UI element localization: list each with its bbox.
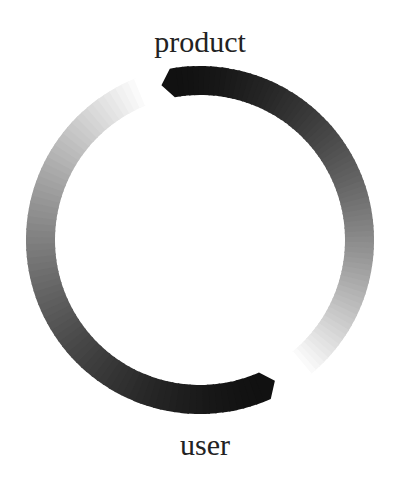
link-arc-user-to-product: [26, 76, 275, 414]
node-label-user: user: [180, 428, 230, 461]
circular-flow-diagram: product user: [0, 0, 400, 483]
link-arc-product-to-user: [161, 66, 374, 378]
arc-group: [26, 66, 374, 414]
node-label-product: product: [154, 25, 246, 58]
